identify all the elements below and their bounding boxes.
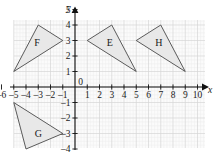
y-tick-label: 3	[66, 36, 71, 46]
x-tick-label: 6	[146, 90, 151, 100]
x-tick-label: –6	[0, 90, 7, 100]
y-tick-label: –1	[60, 98, 71, 108]
y-tick-label: 1	[66, 67, 71, 77]
x-tick-label: –3	[33, 90, 44, 100]
x-tick-label: 10	[193, 90, 203, 100]
x-axis-label: x	[207, 85, 213, 95]
shape-label-g: G	[35, 128, 42, 139]
y-tick-label: –3	[60, 129, 71, 139]
shape-label-h: H	[155, 37, 162, 48]
y-tick-label: 4	[66, 20, 71, 30]
shape-label-f: F	[34, 37, 40, 48]
x-tick-label: 8	[171, 90, 176, 100]
x-tick-label: 4	[122, 90, 127, 100]
x-tick-label: –5	[8, 90, 19, 100]
x-tick-label: 5	[134, 90, 139, 100]
y-axis-label: y	[65, 3, 71, 13]
origin-label: 0	[78, 77, 83, 87]
y-tick-label: –4	[60, 144, 71, 154]
x-tick-label: –2	[45, 90, 56, 100]
y-tick-label: 2	[66, 51, 71, 61]
x-tick-label: 9	[183, 90, 188, 100]
x-tick-label: 1	[85, 90, 90, 100]
x-tick-label: 2	[97, 90, 102, 100]
x-tick-label: 3	[109, 90, 114, 100]
coordinate-plane-figure: –6–5–4–3–2–112345678910–5–4–3–2–1123450 …	[0, 0, 217, 154]
shape-label-e: E	[107, 37, 113, 48]
y-tick-label: –2	[60, 113, 71, 123]
coordinate-plane-svg: –6–5–4–3–2–112345678910–5–4–3–2–1123450 …	[0, 0, 217, 154]
x-tick-label: 7	[158, 90, 163, 100]
x-tick-label: –4	[20, 90, 31, 100]
